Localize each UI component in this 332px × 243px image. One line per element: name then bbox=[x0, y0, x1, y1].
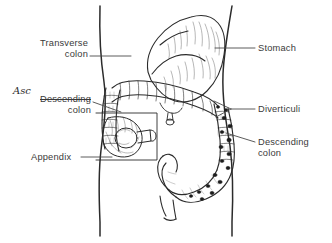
label-descending-colon-left-line1: Descending bbox=[23, 94, 91, 105]
label-descending-colon-right-line1: Descending bbox=[258, 137, 324, 148]
label-descending-colon-left-line2: colon bbox=[23, 105, 91, 116]
cecum-and-appendix bbox=[102, 117, 156, 157]
sigmoid-colon bbox=[169, 170, 231, 202]
label-transverse-colon: Transverse colon bbox=[16, 38, 88, 61]
label-transverse-colon-line1: Transverse bbox=[16, 38, 88, 49]
label-descending-colon-right: Descending colon bbox=[258, 137, 324, 160]
label-diverticuli-line1: Diverticuli bbox=[258, 104, 300, 115]
label-appendix-line1: Appendix bbox=[31, 152, 71, 163]
anatomy-illustration bbox=[0, 0, 332, 243]
label-descending-colon-right-line2: colon bbox=[258, 148, 324, 159]
label-diverticuli: Diverticuli bbox=[258, 104, 300, 115]
transverse-colon-pendant bbox=[160, 103, 182, 125]
label-transverse-colon-line2: colon bbox=[16, 49, 88, 60]
stomach-rugae bbox=[164, 22, 219, 91]
label-stomach-line1: Stomach bbox=[258, 43, 296, 54]
anatomy-figure: Transverse colon Descending colon Asc Ap… bbox=[0, 0, 332, 243]
handwritten-correction-asc: Asc bbox=[13, 85, 31, 96]
label-appendix: Appendix bbox=[31, 152, 71, 163]
rectum bbox=[158, 154, 178, 220]
label-stomach: Stomach bbox=[258, 43, 296, 54]
label-descending-colon-left: Descending colon bbox=[23, 94, 91, 117]
